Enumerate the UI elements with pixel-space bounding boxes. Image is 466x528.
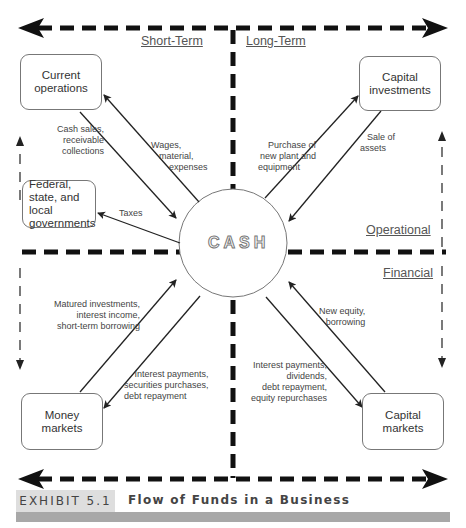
node-capital-investments: Capital investments <box>359 56 441 111</box>
label-new-equity: New equity, borrowing <box>319 306 365 328</box>
node-capital-markets: Capital markets <box>362 393 444 450</box>
label-interest-payments-money: Interest payments, securities purchases,… <box>124 369 209 402</box>
arrow-down-icon <box>438 358 446 368</box>
cash-label: CASH <box>208 234 269 252</box>
arrow-down-icon <box>16 360 24 370</box>
label-sale-assets: Sale of assets <box>360 132 395 154</box>
label-financial: Financial <box>383 266 433 280</box>
arrow-up-icon <box>16 136 24 146</box>
caption-bar <box>16 512 450 522</box>
label-cash-sales: Cash sales, receivable collections <box>46 124 104 157</box>
label-matured-investments: Matured investments, interest income, sh… <box>54 299 140 332</box>
label-interest-payments-capital: Interest payments, dividends, debt repay… <box>251 360 327 404</box>
label-long-term: Long-Term <box>246 34 306 48</box>
label-purchase-plant: Purchase of new plant and equipment <box>258 140 316 173</box>
label-short-term: Short-Term <box>141 34 203 48</box>
node-money-markets: Money markets <box>21 393 103 450</box>
exhibit-title: Flow of Funds in a Business <box>128 493 350 507</box>
node-governments: Federal, state, and local governments <box>22 180 96 228</box>
label-taxes: Taxes <box>119 208 143 219</box>
label-operational: Operational <box>366 223 431 237</box>
axis-bottom <box>18 469 448 489</box>
exhibit-label: EXHIBIT 5.1 <box>16 490 115 512</box>
label-wages: Wages, material, expenses <box>151 140 208 173</box>
arrow-up-icon <box>438 131 446 141</box>
node-current-operations: Current operations <box>20 54 102 110</box>
